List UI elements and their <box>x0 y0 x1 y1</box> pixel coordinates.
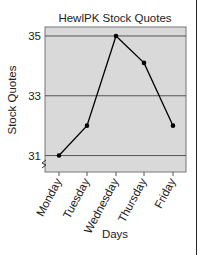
line-chart: HewlPK Stock Quotes 313335 MondayTuesday… <box>0 0 198 255</box>
y-axis-label: Stock Quotes <box>6 65 18 134</box>
data-point <box>171 123 176 128</box>
y-tick-label: 31 <box>28 150 41 162</box>
chart-title: HewlPK Stock Quotes <box>58 12 171 24</box>
x-tick-label: Tuesday <box>61 176 92 220</box>
x-tick-label: Monday <box>34 176 64 218</box>
y-tick-labels: 313335 <box>28 30 41 162</box>
frame-edge <box>196 0 197 255</box>
x-tick-label: Thursday <box>116 176 149 224</box>
plot-area <box>45 27 186 172</box>
data-point <box>57 153 62 158</box>
data-point <box>142 61 147 66</box>
y-tick-label: 35 <box>28 30 41 42</box>
x-axis-label: Days <box>102 228 128 240</box>
x-tick-label: Friday <box>152 176 178 210</box>
y-tick-label: 33 <box>28 90 41 102</box>
data-point <box>114 34 119 39</box>
x-tick-labels: MondayTuesdayWednesdayThursdayFriday <box>34 172 178 235</box>
data-point <box>85 123 90 128</box>
